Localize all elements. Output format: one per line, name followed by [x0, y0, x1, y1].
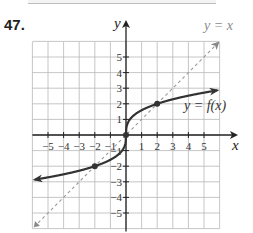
y-tick-label: 3	[117, 82, 123, 94]
x-tick-label: 4	[186, 140, 192, 152]
y-tick-label: −1	[110, 145, 122, 157]
y-tick-label: −2	[110, 160, 122, 172]
x-tick-label: 1	[139, 140, 145, 152]
y-tick-label: 2	[117, 98, 123, 110]
y-tick-label: 5	[117, 51, 123, 63]
x-tick-label: −3	[73, 140, 85, 152]
x-tick-label: 3	[170, 140, 176, 152]
identity-line-label: y = x	[202, 18, 234, 33]
x-tick-label: −5	[42, 140, 54, 152]
y-axis-label: y	[112, 15, 121, 31]
y-tick-label: −4	[110, 191, 122, 203]
x-axis-label: x	[231, 137, 239, 153]
graph: −5−4−3−2−11234554321−1−2−3−4−5 y x y = x…	[0, 0, 253, 233]
x-tick-label: 5	[201, 140, 207, 152]
y-tick-label: 1	[117, 113, 123, 125]
x-tick-label: 2	[154, 140, 160, 152]
marked-point	[92, 163, 98, 169]
y-tick-label: 4	[117, 67, 123, 79]
axes	[32, 22, 236, 232]
function-line-label: y = f(x)	[182, 98, 226, 114]
x-tick-label: −2	[89, 140, 101, 152]
y-tick-label: −5	[110, 207, 122, 219]
marked-point	[123, 132, 129, 138]
x-tick-label: −4	[58, 140, 70, 152]
marked-point	[154, 101, 160, 107]
y-tick-label: −3	[110, 176, 122, 188]
